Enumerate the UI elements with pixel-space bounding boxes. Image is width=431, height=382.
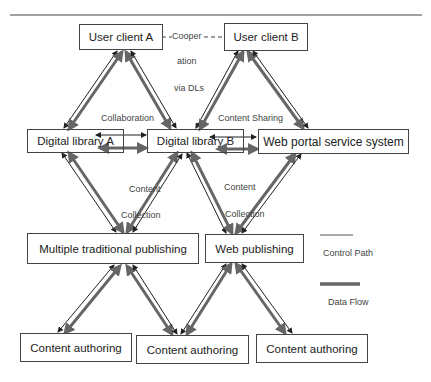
node-label: Web publishing <box>215 243 293 255</box>
node-user-client-b: User client B <box>224 23 308 51</box>
node-label: Content authoring <box>266 343 357 355</box>
edge-label-content-a: Content <box>129 184 161 194</box>
edge-label-cooperation-2: ation <box>177 56 197 66</box>
node-digital-library-a: Digital library A <box>27 129 124 153</box>
node-web-portal: Web portal service system <box>258 129 409 154</box>
node-content-authoring-3: Content authoring <box>256 334 368 363</box>
edge-label-collaboration: Collaboration <box>101 113 154 123</box>
node-label: Multiple traditional publishing <box>39 243 187 255</box>
node-label: Digital library B <box>157 135 234 147</box>
node-label: Content authoring <box>147 344 238 356</box>
node-digital-library-b: Digital library B <box>147 129 244 153</box>
edge-label-content-sharing: Content Sharing <box>218 113 283 123</box>
legend-data-flow-label: Data Flow <box>328 297 369 307</box>
node-label: Web portal service system <box>263 135 404 149</box>
node-web-publishing: Web publishing <box>205 234 304 263</box>
node-label: User client B <box>233 31 298 43</box>
node-multiple-traditional-publishing: Multiple traditional publishing <box>27 233 199 264</box>
node-content-authoring-1: Content authoring <box>20 333 132 362</box>
connection-lines <box>0 0 431 382</box>
edge-label-collection-a: Collection <box>121 210 161 220</box>
edge-label-collection-b: Collection <box>225 209 265 219</box>
node-content-authoring-2: Content authoring <box>136 335 249 364</box>
node-label: Content authoring <box>30 342 121 354</box>
edge-label-cooperation: Cooper <box>172 31 202 41</box>
edge-label-content-b: Content <box>224 182 256 192</box>
node-label: Digital library A <box>37 135 114 147</box>
node-label: User client A <box>89 31 154 43</box>
edge-label-cooperation-3: via DLs <box>174 83 204 93</box>
legend-control-path-label: Control Path <box>323 248 373 258</box>
node-user-client-a: User client A <box>79 24 163 50</box>
